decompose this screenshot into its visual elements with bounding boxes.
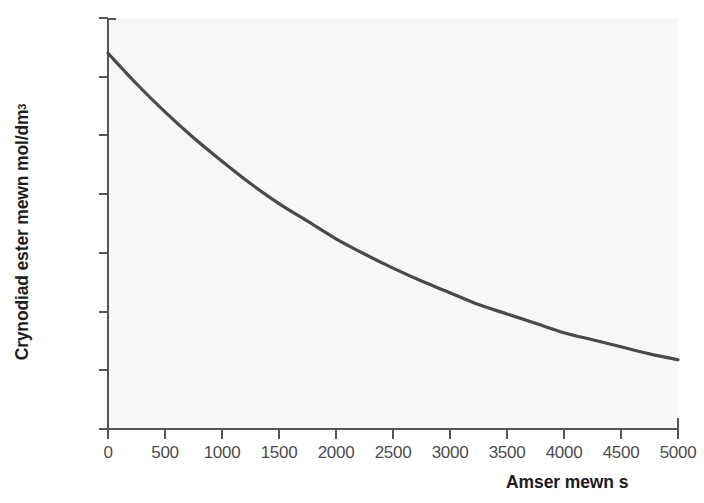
x-tick-label: 3000 xyxy=(432,443,469,463)
x-tick-label: 4000 xyxy=(546,443,583,463)
x-tick-mark xyxy=(335,430,337,439)
x-tick-mark xyxy=(164,430,166,439)
y-axis-title-text: Crynodiad ester mewn mol/dm xyxy=(12,110,33,361)
x-tick-mark xyxy=(392,430,394,439)
y-tick-mark xyxy=(99,369,108,371)
x-tick-label: 0 xyxy=(103,443,112,463)
x-tick-label: 2000 xyxy=(318,443,355,463)
x-tick-label: 4500 xyxy=(603,443,640,463)
y-tick-mark xyxy=(99,193,108,195)
y-tick-mark xyxy=(99,17,108,19)
y-tick-mark xyxy=(99,311,108,313)
x-tick-label: 2500 xyxy=(375,443,412,463)
plot-area xyxy=(108,18,678,429)
bottom-right-corner-stub xyxy=(677,418,679,430)
y-axis-line xyxy=(107,18,109,430)
x-tick-mark xyxy=(620,430,622,439)
x-tick-label: 5000 xyxy=(660,443,697,463)
x-tick-mark xyxy=(506,430,508,439)
y-tick-mark xyxy=(99,76,108,78)
y-tick-mark xyxy=(99,134,108,136)
x-tick-mark xyxy=(677,430,679,439)
x-tick-mark xyxy=(563,430,565,439)
x-tick-label: 1500 xyxy=(261,443,298,463)
x-tick-label: 1000 xyxy=(204,443,241,463)
top-left-corner-stub xyxy=(107,18,116,20)
y-axis-title: Crynodiad ester mewn mol/dm3 xyxy=(4,12,40,452)
x-tick-label: 3500 xyxy=(489,443,526,463)
chart-container: 0.00.050.100.150.200.250.300.35 05001000… xyxy=(0,0,704,503)
x-tick-mark xyxy=(107,430,109,439)
y-tick-mark xyxy=(99,252,108,254)
x-tick-mark xyxy=(449,430,451,439)
x-tick-mark xyxy=(278,430,280,439)
x-tick-label: 500 xyxy=(151,443,178,463)
x-axis-title: Amser mewn s xyxy=(506,472,628,493)
x-tick-mark xyxy=(221,430,223,439)
